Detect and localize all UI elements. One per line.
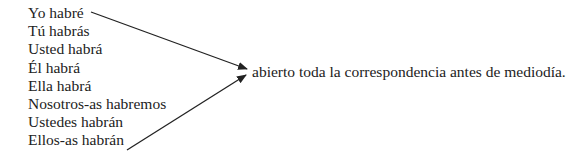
- arrow-bottom-icon: [127, 75, 246, 150]
- arrow-top-icon: [91, 12, 247, 69]
- predicate-text: abierto toda la correspondencia antes de…: [252, 63, 566, 81]
